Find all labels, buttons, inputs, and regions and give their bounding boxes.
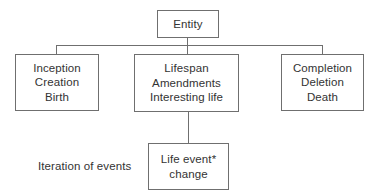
node-entity: Entity [157,10,219,38]
connector-middle-phase-to-life-event [188,112,189,144]
node-middle-phase-line-1: Lifespan [164,61,208,76]
node-middle-phase-line-2: Amendments [152,76,221,91]
node-end-phase: Completion Deletion Death [281,54,364,111]
label-iteration-of-events: Iteration of events [38,159,131,173]
node-start-phase: Inception Creation Birth [15,54,99,111]
connector-entity-to-bus [187,38,188,45]
node-entity-line-1: Entity [173,17,202,32]
entity-lifecycle-diagram: Entity Inception Creation Birth Lifespan… [0,0,377,192]
node-life-event: Life event* change [148,143,229,190]
node-start-phase-line-1: Inception [33,61,81,76]
node-start-phase-line-3: Birth [45,90,69,105]
node-end-phase-line-3: Death [307,90,338,105]
node-life-event-line-1: Life event* [161,152,216,167]
node-middle-phase: Lifespan Amendments Interesting life [134,54,239,112]
node-middle-phase-line-3: Interesting life [150,90,223,105]
connector-horizontal-bus [56,45,323,46]
node-start-phase-line-2: Creation [35,75,79,90]
node-end-phase-line-2: Deletion [301,75,344,90]
node-end-phase-line-1: Completion [293,61,352,76]
node-life-event-line-2: change [169,167,207,182]
